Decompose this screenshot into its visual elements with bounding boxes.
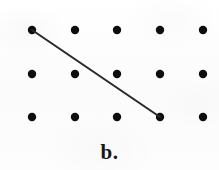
grid-dot-r2c5 xyxy=(199,70,207,78)
grid-dot-r2c1 xyxy=(28,70,36,78)
grid-dot-r1c4 xyxy=(156,26,164,34)
grid-dot-r1c3 xyxy=(113,26,121,34)
diagonal-segment xyxy=(32,30,160,117)
grid-dot-r3c2 xyxy=(71,113,79,121)
grid-dot-r3c3 xyxy=(113,113,121,121)
grid-dot-r2c3 xyxy=(113,70,121,78)
grid-dot-r3c5 xyxy=(199,113,207,121)
figure-label: b. xyxy=(0,140,219,164)
grid-dot-r1c2 xyxy=(71,26,79,34)
grid-dot-r3c1 xyxy=(28,113,36,121)
grid-dot-r2c4 xyxy=(156,70,164,78)
grid-dot-r1c5 xyxy=(199,26,207,34)
grid-dot-r2c2 xyxy=(71,70,79,78)
figure-container: b. xyxy=(0,0,219,170)
